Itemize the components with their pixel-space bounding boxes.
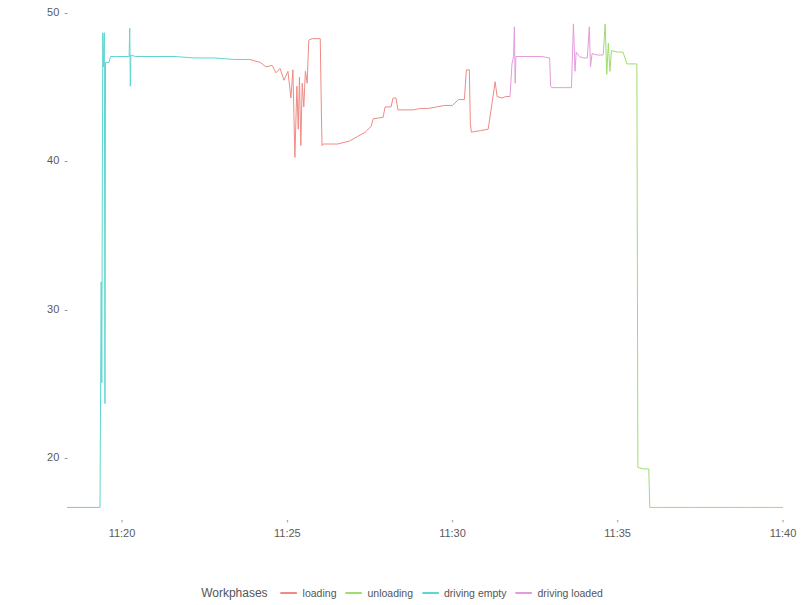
legend-item-loading[interactable]: loading (281, 587, 337, 599)
x-tick-11-40: '11:40 (770, 522, 797, 539)
y-axis-title: Tensile Force (kN) (0, 203, 6, 605)
legend-title: Workphases (201, 586, 267, 600)
legend-item-driving-loaded[interactable]: driving loaded (515, 587, 602, 599)
x-tick-label: 11:20 (109, 527, 136, 539)
legend-item-label: driving loaded (537, 587, 602, 599)
legend-item-label: unloading (367, 587, 413, 599)
x-tick-11-25: '11:25 (274, 522, 301, 539)
legend-swatch-icon (422, 592, 439, 594)
x-tick-11-30: '11:30 (439, 522, 466, 539)
x-tick-label: 11:35 (604, 527, 631, 539)
x-tick-label: 11:25 (274, 527, 301, 539)
x-tick-11-35: '11:35 (604, 522, 631, 539)
chart-plot-area: 50-40-30-20- '11:20'11:25'11:30'11:35'11… (0, 0, 804, 605)
legend-swatch-icon (281, 592, 298, 594)
x-tick-label: 11:40 (770, 527, 797, 539)
legend-swatch-icon (345, 592, 362, 594)
x-tick-11-20: '11:20 (109, 522, 136, 539)
legend-swatch-icon (515, 592, 532, 594)
x-axis-ticks: '11:20'11:25'11:30'11:35'11:40 (0, 0, 804, 605)
chart-legend: Workphases loadingunloadingdriving empty… (201, 586, 603, 600)
legend-item-driving-empty[interactable]: driving empty (422, 587, 506, 599)
legend-item-label: loading (303, 587, 337, 599)
x-tick-label: 11:30 (439, 527, 466, 539)
legend-item-unloading[interactable]: unloading (345, 587, 413, 599)
legend-item-label: driving empty (444, 587, 506, 599)
